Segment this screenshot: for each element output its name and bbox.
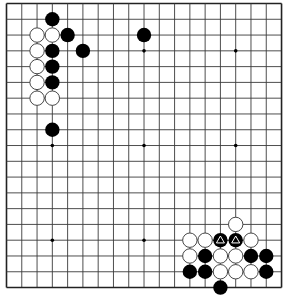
white-stone[interactable] [229,217,243,231]
white-stone[interactable] [213,265,227,279]
white-stone[interactable] [244,265,258,279]
star-point [51,238,55,242]
black-stone[interactable] [183,265,197,279]
white-stone[interactable] [213,249,227,263]
white-stone[interactable] [183,249,197,263]
black-stone[interactable] [244,249,258,263]
black-stone[interactable] [137,28,151,42]
white-stone[interactable] [30,28,44,42]
black-stone[interactable] [259,265,273,279]
white-stone[interactable] [30,59,44,73]
white-stone[interactable] [229,265,243,279]
star-point [142,49,146,53]
white-stone[interactable] [45,91,59,105]
go-board-canvas[interactable] [0,0,284,295]
black-stone[interactable] [198,265,212,279]
black-stone[interactable] [45,75,59,89]
white-stone[interactable] [45,28,59,42]
white-stone[interactable] [198,233,212,247]
star-point [142,144,146,148]
black-stone[interactable] [45,12,59,26]
black-stone[interactable] [213,280,227,294]
black-stone[interactable] [259,249,273,263]
go-board[interactable] [0,0,284,295]
black-stone[interactable] [198,249,212,263]
white-stone[interactable] [30,44,44,58]
white-stone[interactable] [229,249,243,263]
stones-layer[interactable] [30,12,274,295]
white-stone[interactable] [244,233,258,247]
black-stone[interactable] [45,123,59,137]
white-stone[interactable] [183,233,197,247]
white-stone[interactable] [30,75,44,89]
star-point [51,144,55,148]
black-stone[interactable] [45,44,59,58]
star-point [234,144,238,148]
black-stone[interactable] [60,28,74,42]
star-point [142,238,146,242]
white-stone[interactable] [30,91,44,105]
black-stone[interactable] [76,44,90,58]
star-point [234,49,238,53]
black-stone[interactable] [45,59,59,73]
